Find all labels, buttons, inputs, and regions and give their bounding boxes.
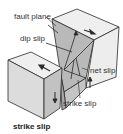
left-block [8,52,62,119]
label-net-slip: net slip [90,66,115,75]
label-dip-slip: dip slip [20,34,45,43]
right-block [52,9,119,110]
label-fault-plane: fault plane [14,12,51,21]
label-strike-slip: strike slip [63,99,96,108]
diagram-caption: strike slip [13,122,50,131]
